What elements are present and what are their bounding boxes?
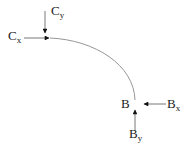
free-body-diagram — [0, 0, 190, 148]
label-point-b-text: B — [121, 96, 130, 111]
label-bx-sub: x — [176, 103, 181, 113]
label-bx-base: B — [167, 96, 176, 111]
label-cy-sub: y — [60, 10, 65, 20]
label-cx-sub: x — [17, 35, 22, 45]
label-cy-base: C — [51, 3, 60, 18]
label-by-sub: y — [138, 133, 143, 143]
label-cy: Cy — [51, 4, 64, 20]
label-point-b: B — [121, 97, 130, 110]
label-cx: Cx — [8, 29, 21, 45]
label-cx-base: C — [8, 28, 17, 43]
label-bx: Bx — [167, 97, 180, 113]
label-by: By — [129, 127, 142, 143]
label-by-base: B — [129, 126, 138, 141]
curved-member-arc — [50, 38, 135, 100]
